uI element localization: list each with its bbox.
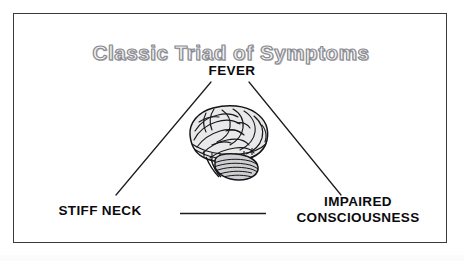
vertex-label-fever: FEVER [0, 63, 464, 78]
vertex-label-impaired-consciousness: IMPAIRED CONSCIOUSNESS [290, 194, 426, 225]
figure-root: Classic Triad of Symptoms [0, 0, 464, 267]
vertex-label-stiff-neck: STIFF NECK [40, 203, 160, 218]
fever-text: FEVER [0, 63, 464, 78]
brain-cerebellum [214, 154, 263, 180]
stiff-neck-text: STIFF NECK [40, 203, 160, 218]
impaired-text-line1: IMPAIRED [290, 194, 426, 210]
brain-illustration [182, 101, 274, 185]
impaired-text-line2: CONSCIOUSNESS [290, 210, 426, 226]
paper-band [0, 255, 464, 261]
page-title: Classic Triad of Symptoms [14, 41, 448, 65]
